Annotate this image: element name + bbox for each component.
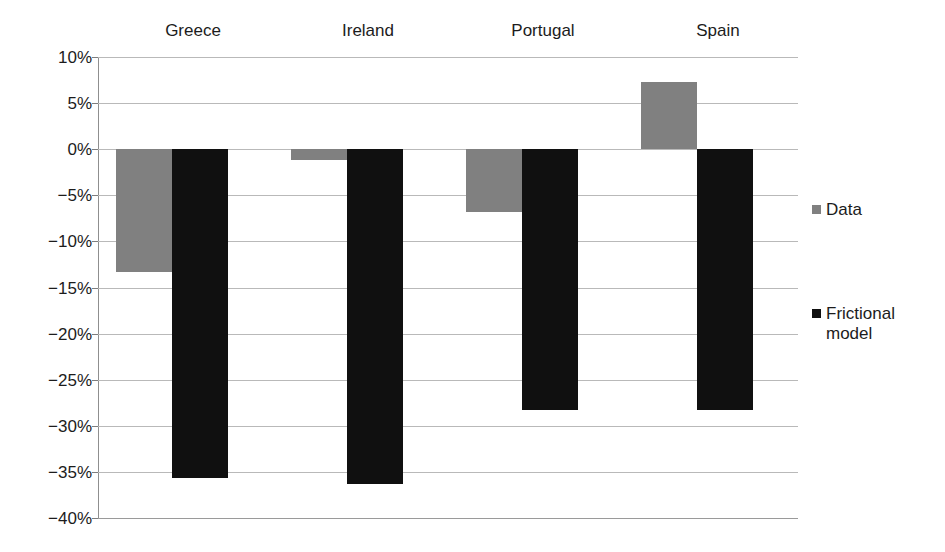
bar-portugal-data: [466, 149, 522, 212]
gridline-neg40: [98, 518, 798, 519]
y-tick-label-neg5: −5%: [8, 187, 92, 204]
y-tick-label-neg35: −35%: [8, 464, 92, 481]
legend-swatch-frictional-model-icon: [812, 309, 821, 318]
y-tick-label-neg15: −15%: [8, 280, 92, 297]
legend-swatch-data-icon: [812, 205, 821, 214]
y-axis: 10% 5% 0% −5% −10% −15% −20% −25% −30% −…: [0, 57, 92, 518]
y-tick-label-5: 5%: [8, 95, 92, 112]
category-label-portugal: Portugal: [463, 22, 623, 40]
y-tick-label-neg25: −25%: [8, 372, 92, 389]
bar-greece-model: [172, 149, 228, 478]
bar-portugal-model: [522, 149, 578, 410]
legend-entry-data: Data: [812, 200, 862, 220]
legend-label-data: Data: [826, 200, 862, 220]
y-tick-label-10: 10%: [8, 49, 92, 66]
bar-ireland-model: [347, 149, 403, 484]
category-label-greece: Greece: [113, 22, 273, 40]
bar-chart: 10% 5% 0% −5% −10% −15% −20% −25% −30% −…: [0, 0, 945, 552]
gridline-10: [98, 57, 798, 58]
bar-greece-data: [116, 149, 172, 272]
y-tick-label-0: 0%: [8, 141, 92, 158]
legend-label-frictional-model: Frictional model: [826, 304, 895, 344]
bar-spain-data: [641, 82, 697, 149]
y-tick-label-neg30: −30%: [8, 418, 92, 435]
y-tick-label-neg40: −40%: [8, 510, 92, 527]
bar-spain-model: [697, 149, 753, 410]
bar-ireland-data: [291, 149, 347, 160]
category-label-spain: Spain: [638, 22, 798, 40]
y-tick-label-neg10: −10%: [8, 233, 92, 250]
y-tick-label-neg20: −20%: [8, 326, 92, 343]
legend-entry-frictional-model: Frictional model: [812, 304, 895, 344]
category-label-ireland: Ireland: [288, 22, 448, 40]
plot-area: [98, 57, 798, 518]
